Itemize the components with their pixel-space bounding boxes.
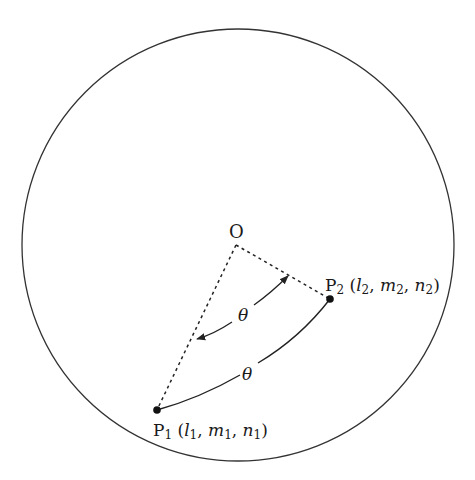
arc-theta-label: θ — [242, 364, 252, 384]
point-p2-dot — [326, 295, 334, 303]
great-circle-arc-upper — [258, 299, 330, 363]
sphere-circle — [22, 29, 454, 461]
sphere-diagram: θ θ O P2 (l2, m2, n2) P1 (l1, m1, n1) — [0, 0, 475, 480]
point-p1-dot — [153, 406, 161, 414]
angle-theta-label: θ — [238, 305, 248, 325]
radius-o-p2 — [236, 245, 330, 299]
point-p2-label: P2 (l2, m2, n2) — [325, 275, 440, 297]
point-p1-label: P1 (l1, m1, n1) — [153, 420, 268, 442]
center-label-o: O — [229, 221, 244, 242]
angle-arc-upper — [254, 276, 288, 305]
great-circle-arc-lower — [157, 375, 240, 410]
angle-arc-lower — [197, 322, 232, 339]
